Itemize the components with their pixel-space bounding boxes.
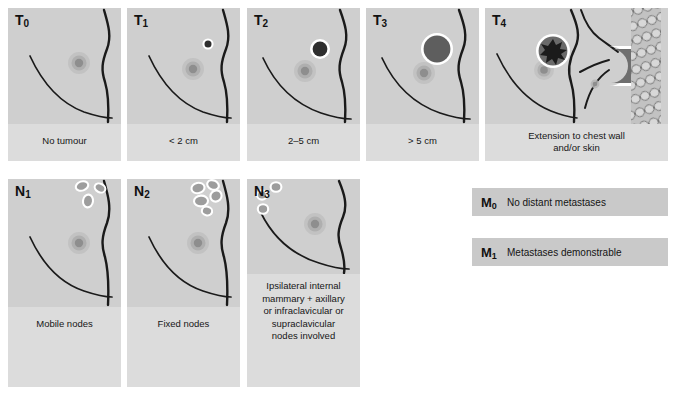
panel-t4-caption-line1: Extension to chest wall: [488, 130, 665, 143]
panel-m0: M0 No distant metastases: [472, 188, 668, 216]
stage-code-m0: M: [481, 195, 492, 210]
stage-code-n2: N: [134, 183, 144, 199]
panel-n3-caption-line2: mammary + axillary: [250, 293, 357, 306]
stage-label-n3: N3: [254, 183, 270, 199]
panel-n2-caption: Fixed nodes: [130, 318, 237, 331]
stage-sub-t1: 1: [143, 18, 149, 29]
panel-t1-caption: < 2 cm: [130, 135, 237, 148]
panel-n3-caption-line5: nodes involved: [250, 330, 357, 343]
axillary-nodes-n1: [74, 180, 106, 208]
stage-sub-t3: 3: [382, 18, 388, 29]
panel-t3: > 5 cm T3: [366, 8, 479, 161]
stage-sub-n3: 3: [264, 189, 270, 200]
panel-n3-caption-line4: supraclavicular: [250, 318, 357, 331]
panel-t0-caption: No tumour: [11, 135, 118, 148]
stage-label-t1: T1: [134, 12, 148, 28]
panel-t4: Extension to chest wall and/or skin T4: [485, 8, 668, 161]
panel-m1: M1 Metastases demonstrable: [472, 238, 668, 266]
stage-label-m0: M0: [481, 195, 507, 210]
panel-t2-caption-band: 2–5 cm: [247, 124, 360, 161]
panel-t4-caption-band: Extension to chest wall and/or skin: [485, 124, 668, 161]
panel-n1-caption: Mobile nodes: [11, 318, 118, 331]
panel-t0-caption-band: No tumour: [8, 124, 121, 161]
panel-t1: < 2 cm T1: [127, 8, 240, 161]
breast-outline-t4: [485, 8, 668, 124]
stage-code-t4: T: [492, 12, 501, 28]
stage-code-t2: T: [254, 12, 263, 28]
tumour-nodule-t3: [421, 33, 453, 65]
stage-label-n1: N1: [15, 183, 31, 199]
stage-code-n1: N: [15, 183, 25, 199]
panel-n3-caption-line3: or infraclavicular or: [250, 305, 357, 318]
stage-label-n2: N2: [134, 183, 150, 199]
panel-t2-caption: 2–5 cm: [250, 135, 357, 148]
stage-sub-t4: 4: [501, 18, 507, 29]
panel-t3-caption: > 5 cm: [369, 135, 476, 148]
stage-code-t3: T: [373, 12, 382, 28]
tumour-star-t4: [536, 34, 570, 68]
stage-code-t0: T: [15, 12, 24, 28]
stage-label-t3: T3: [373, 12, 387, 28]
panel-n3-caption-line1: Ipsilateral internal: [250, 280, 357, 293]
stage-code-n3: N: [254, 183, 264, 199]
panel-n3: Ipsilateral internal mammary + axillary …: [247, 179, 360, 387]
stage-sub-m1: 1: [492, 251, 497, 261]
stage-label-m1: M1: [481, 245, 507, 260]
stage-code-t1: T: [134, 12, 143, 28]
stage-label-t2: T2: [254, 12, 268, 28]
panel-n1-caption-band: Mobile nodes: [8, 307, 121, 387]
tumour-nodule-t2: [310, 39, 330, 59]
stage-sub-t0: 0: [24, 18, 30, 29]
panel-n2: Fixed nodes N2: [127, 179, 240, 387]
panel-t2: 2–5 cm T2: [247, 8, 360, 161]
panel-t3-caption-band: > 5 cm: [366, 124, 479, 161]
stage-sub-m0: 0: [492, 201, 497, 211]
stage-sub-n1: 1: [25, 189, 31, 200]
panel-n2-caption-band: Fixed nodes: [127, 307, 240, 387]
panel-t4-caption-line2: and/or skin: [488, 142, 665, 155]
chest-wall-mass-t4: [609, 46, 631, 86]
panel-t1-caption-band: < 2 cm: [127, 124, 240, 161]
stage-code-m1: M: [481, 245, 492, 260]
panel-n1: Mobile nodes N1: [8, 179, 121, 387]
panel-m0-text: No distant metastases: [507, 197, 606, 208]
stage-sub-t2: 2: [263, 18, 269, 29]
axillary-nodes-n2: [190, 179, 223, 217]
chest-wall-ribs-t4: [631, 8, 661, 124]
tumour-nodule-t1: [202, 38, 213, 49]
panel-n3-caption-band: Ipsilateral internal mammary + axillary …: [247, 274, 360, 387]
panel-m1-text: Metastases demonstrable: [507, 247, 622, 258]
panel-t0: No tumour T0: [8, 8, 121, 161]
panel-t4-illustration: [485, 8, 668, 124]
stage-sub-n2: 2: [144, 189, 150, 200]
stage-label-t4: T4: [492, 12, 506, 28]
stage-label-t0: T0: [15, 12, 29, 28]
